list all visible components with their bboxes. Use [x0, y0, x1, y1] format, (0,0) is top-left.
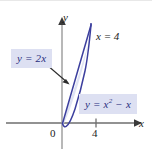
parabola-equation-prefix: y = [85, 98, 104, 110]
callout-label-line: y = 2x [11, 49, 52, 68]
line-equation-text: y = 2 [17, 52, 41, 64]
parabola-equation-suffix: − x [112, 98, 131, 110]
origin-label: 0 [50, 127, 56, 139]
vertical-line-label: x = 4 [96, 30, 119, 42]
line-equation-var: x [41, 52, 46, 64]
coordinate-plot [0, 1, 152, 151]
x-axis-label: x [139, 117, 144, 129]
y-axis-label: y [63, 11, 68, 23]
graph-figure: y = 2x y = x2 − x x = 4 y x 0 4 [0, 0, 152, 151]
callout-label-parabola: y = x2 − x [79, 94, 137, 114]
x-tick-label-4: 4 [92, 127, 98, 139]
